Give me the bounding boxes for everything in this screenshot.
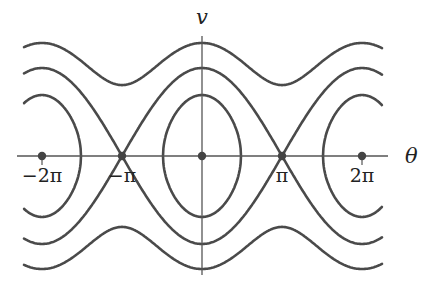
outer-rotation-lower-curve <box>24 227 382 269</box>
outer-rotation-upper-curve <box>24 43 382 85</box>
separatrix-lower-curve <box>24 156 382 244</box>
v-axis-label: v <box>196 5 208 29</box>
tick-label: −2π <box>22 164 63 186</box>
fixed-point <box>38 152 46 160</box>
phase-portrait-svg: −2π−ππ2π θ v <box>0 0 430 288</box>
libration-orbit-2-0 <box>323 95 382 156</box>
phase-portrait: −2π−ππ2π θ v <box>0 0 430 288</box>
tick-labels: −2π−ππ2π <box>22 164 375 186</box>
separatrix-upper-curve <box>24 68 382 156</box>
theta-axis-label: θ <box>405 144 418 168</box>
tick-label: 2π <box>350 164 375 186</box>
tick-label: π <box>276 164 289 186</box>
fixed-point <box>198 152 206 160</box>
fixed-point <box>358 152 366 160</box>
fixed-point <box>278 152 286 160</box>
fixed-point <box>118 152 126 160</box>
tick-label: −π <box>108 164 136 186</box>
